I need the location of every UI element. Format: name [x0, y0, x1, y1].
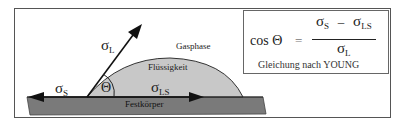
- formula-equals: =: [295, 33, 302, 49]
- arrow-sigma-l-icon: [128, 24, 142, 39]
- formula-lhs: cos Θ: [250, 33, 282, 49]
- young-equation-box: cos Θ = σS – σLS σL Gleichung nach YOUNG: [243, 10, 389, 74]
- formula-denominator: σL: [337, 40, 351, 58]
- label-gas-phase: Gasphase: [176, 41, 211, 51]
- formula-caption: Gleichung nach YOUNG: [258, 59, 359, 70]
- formula-numerator: σS – σLS: [316, 13, 372, 31]
- label-theta: Θ: [101, 80, 111, 96]
- label-liquid: Flüssigkeit: [148, 62, 188, 72]
- label-sigma-ls: σLS: [151, 79, 170, 97]
- label-sigma-l: σL: [101, 37, 115, 55]
- label-solid: Festkörper: [125, 99, 164, 109]
- label-sigma-s: σS: [55, 80, 68, 98]
